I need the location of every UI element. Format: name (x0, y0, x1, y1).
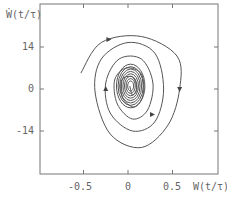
y-tick-label: 0 (28, 83, 34, 94)
x-tick-label: 0.5 (163, 181, 181, 192)
y-tick-label: 14 (22, 41, 34, 52)
x-tick-label: 0 (125, 181, 131, 192)
trajectory-curve (81, 36, 181, 148)
arrow-icon (150, 112, 155, 117)
arrow-icon (103, 86, 108, 91)
plot-frame (40, 4, 218, 174)
x-axis-label: W(t/τ) (193, 181, 227, 192)
arrow-icon (106, 37, 111, 42)
phase-plot (0, 0, 227, 201)
y-tick-label: -14 (16, 125, 34, 136)
axis-ticks (40, 4, 218, 174)
y-axis-label: Ẇ(t/τ) (6, 9, 42, 20)
x-tick-label: -0.5 (68, 181, 92, 192)
arrow-icon (177, 87, 182, 92)
